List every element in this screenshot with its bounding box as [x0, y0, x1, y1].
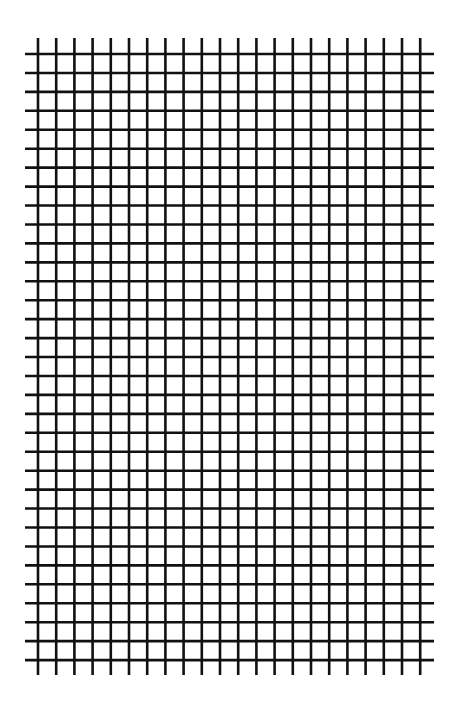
horizontal-grid-lines — [25, 54, 434, 660]
grid-diagram — [0, 0, 456, 710]
